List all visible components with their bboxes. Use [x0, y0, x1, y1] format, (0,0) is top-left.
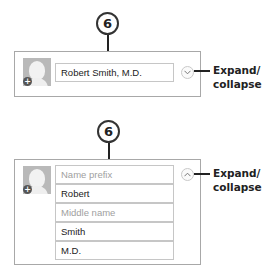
expand-collapse-label: Expand/ collapse	[213, 166, 262, 194]
name-prefix-placeholder: Name prefix	[61, 169, 112, 180]
chevron-down-icon	[184, 70, 191, 75]
expand-collapse-button[interactable]	[181, 168, 194, 181]
label-line-1: Expand/	[213, 166, 262, 180]
label-line-1: Expand/	[213, 63, 262, 77]
middle-name-input[interactable]: Middle name	[55, 203, 174, 222]
expand-collapse-button[interactable]	[181, 66, 194, 79]
name-suffix-input[interactable]: M.D.	[55, 241, 174, 260]
name-prefix-input[interactable]: Name prefix	[55, 165, 174, 184]
label-connector-line	[194, 70, 210, 72]
contact-photo-avatar[interactable]: +	[23, 58, 51, 86]
full-name-value: Robert Smith, M.D.	[61, 67, 142, 78]
contact-name-panel-collapsed: + Robert Smith, M.D.	[14, 51, 201, 97]
add-photo-icon[interactable]: +	[23, 185, 32, 194]
contact-photo-avatar[interactable]: +	[23, 166, 51, 194]
callout-number: 6	[96, 12, 119, 35]
add-photo-icon[interactable]: +	[23, 77, 32, 86]
first-name-value: Robert	[61, 188, 90, 199]
full-name-input[interactable]: Robert Smith, M.D.	[55, 63, 174, 82]
callout-number: 6	[97, 120, 120, 143]
label-line-2: collapse	[213, 180, 262, 194]
name-suffix-value: M.D.	[61, 245, 81, 256]
last-name-value: Smith	[61, 226, 85, 237]
label-line-2: collapse	[213, 77, 262, 91]
expand-collapse-label: Expand/ collapse	[213, 63, 262, 91]
chevron-up-icon	[184, 172, 191, 177]
first-name-input[interactable]: Robert	[55, 184, 174, 203]
label-connector-line	[194, 173, 210, 175]
middle-name-placeholder: Middle name	[61, 207, 115, 218]
contact-name-panel-expanded: + Name prefix Robert Middle name Smith M…	[14, 159, 201, 265]
last-name-input[interactable]: Smith	[55, 222, 174, 241]
